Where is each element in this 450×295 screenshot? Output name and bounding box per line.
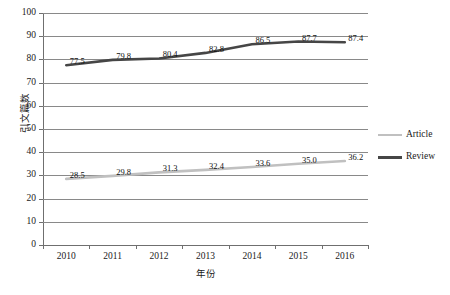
x-axis-tick-mark bbox=[136, 245, 137, 249]
data-label: 87.7 bbox=[302, 34, 317, 43]
data-label: 35.0 bbox=[302, 156, 317, 165]
series-lines bbox=[43, 13, 368, 245]
y-axis-tick-label: 90 bbox=[10, 31, 36, 41]
x-axis-tick-label: 2010 bbox=[46, 252, 86, 262]
data-label: 33.6 bbox=[255, 159, 270, 168]
legend-label: Article bbox=[406, 130, 432, 140]
y-axis-title: 引文篇数 bbox=[17, 83, 31, 143]
y-axis-tick-label: 10 bbox=[10, 217, 36, 227]
legend-item-article[interactable]: Article bbox=[378, 124, 450, 146]
legend-label: Review bbox=[406, 152, 435, 162]
y-axis-tick-label: 30 bbox=[10, 170, 36, 180]
x-axis-tick-mark bbox=[368, 245, 369, 249]
x-axis-tick-mark bbox=[322, 245, 323, 249]
data-label: 36.2 bbox=[348, 153, 363, 162]
chart-legend: ArticleReview bbox=[378, 124, 450, 168]
y-axis-tick-label: 0 bbox=[10, 240, 36, 250]
legend-item-review[interactable]: Review bbox=[378, 146, 450, 168]
legend-swatch-review bbox=[378, 156, 402, 159]
plot-area: 28.529.831.332.433.635.036.277.579.880.4… bbox=[43, 13, 368, 245]
x-axis-tick-mark bbox=[182, 245, 183, 249]
x-axis-tick-label: 2014 bbox=[232, 252, 272, 262]
x-axis-tick-label: 2013 bbox=[186, 252, 226, 262]
x-axis-title: 年份 bbox=[43, 266, 368, 280]
data-label: 86.5 bbox=[255, 36, 270, 45]
series-line-review bbox=[66, 42, 345, 66]
data-label: 87.4 bbox=[348, 34, 363, 43]
x-axis-tick-label: 2012 bbox=[139, 252, 179, 262]
data-label: 79.8 bbox=[116, 52, 131, 61]
y-axis-tick-label: 80 bbox=[10, 54, 36, 64]
data-label: 32.4 bbox=[209, 162, 224, 171]
x-axis-tick-mark bbox=[229, 245, 230, 249]
x-axis-tick-label: 2016 bbox=[325, 252, 365, 262]
x-axis-tick-mark bbox=[89, 245, 90, 249]
x-axis-tick-label: 2015 bbox=[278, 252, 318, 262]
y-axis-tick-label: 40 bbox=[10, 147, 36, 157]
data-label: 28.5 bbox=[70, 171, 85, 180]
x-axis-line bbox=[43, 245, 368, 246]
data-label: 80.4 bbox=[163, 50, 178, 59]
y-axis-tick-label: 20 bbox=[10, 194, 36, 204]
x-axis-tick-mark bbox=[275, 245, 276, 249]
x-axis-tick-label: 2011 bbox=[93, 252, 133, 262]
line-chart: 0102030405060708090100 引文篇数 28.529.831.3… bbox=[0, 0, 450, 295]
x-axis-tick-mark bbox=[43, 245, 44, 249]
data-label: 77.5 bbox=[70, 57, 85, 66]
y-axis-tick-label: 100 bbox=[10, 8, 36, 18]
legend-swatch-article bbox=[378, 134, 402, 136]
data-label: 82.8 bbox=[209, 45, 224, 54]
data-label: 31.3 bbox=[163, 164, 178, 173]
data-label: 29.8 bbox=[116, 168, 131, 177]
